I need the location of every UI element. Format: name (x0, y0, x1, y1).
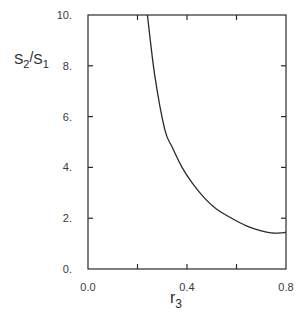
x-tick-label: 0.8 (278, 281, 293, 293)
y-tick-label: 0. (63, 263, 72, 275)
x-tick-label: 0.4 (179, 281, 194, 293)
y-tick-label: 8. (63, 60, 72, 72)
y-axis-label: S2/S1 (14, 49, 49, 70)
x-tick-label: 0.0 (80, 281, 95, 293)
y-tick-label: 6. (63, 111, 72, 123)
y-tick-label: 4. (63, 161, 72, 173)
y-tick-label: 10. (57, 9, 72, 21)
chart: 0.00.40.80.2.4.6.8.10. S2/S1 r3 (0, 0, 300, 313)
plot-frame (88, 15, 286, 269)
tick-labels: 0.00.40.80.2.4.6.8.10. (57, 9, 294, 293)
axis-ticks (88, 15, 286, 269)
y-tick-label: 2. (63, 212, 72, 224)
data-curve (147, 15, 286, 233)
